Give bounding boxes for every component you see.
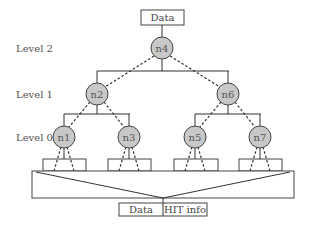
bracket-left-level-1 xyxy=(64,105,130,126)
svg-text:n1: n1 xyxy=(58,132,71,143)
bottom-record-box: Data HIT info xyxy=(119,203,207,216)
tree-diagram: Level 2 Level 1 Level 0 Data xyxy=(0,0,310,229)
svg-text:n6: n6 xyxy=(222,89,235,100)
top-data-box: Data xyxy=(141,10,184,25)
node-n4: n4 xyxy=(151,37,173,59)
svg-text:n4: n4 xyxy=(156,43,169,54)
level-1-label: Level 1 xyxy=(16,89,53,100)
bracket-level-2 xyxy=(97,59,229,83)
svg-text:n5: n5 xyxy=(189,132,202,143)
level-2-label: Level 2 xyxy=(16,43,53,54)
merge-box xyxy=(32,171,294,203)
svg-text:n2: n2 xyxy=(91,89,104,100)
svg-text:n7: n7 xyxy=(254,132,267,143)
bottom-data-label: Data xyxy=(129,204,153,215)
leaf-box-n7 xyxy=(239,147,282,171)
top-data-label: Data xyxy=(151,12,175,23)
level-0-label: Level 0 xyxy=(16,132,53,143)
node-n6: n6 xyxy=(217,83,239,105)
leaf-box-n5 xyxy=(174,147,218,171)
leaf-box-n3 xyxy=(108,147,151,171)
leaf-box-n1 xyxy=(43,147,86,171)
node-n7: n7 xyxy=(249,126,271,148)
node-n1: n1 xyxy=(53,126,75,148)
node-n5: n5 xyxy=(184,126,206,148)
bottom-hit-info-label: HIT info xyxy=(164,204,206,215)
svg-text:n3: n3 xyxy=(123,132,136,143)
bracket-right-level-1 xyxy=(195,105,261,126)
node-n2: n2 xyxy=(86,83,108,105)
node-n3: n3 xyxy=(118,126,140,148)
